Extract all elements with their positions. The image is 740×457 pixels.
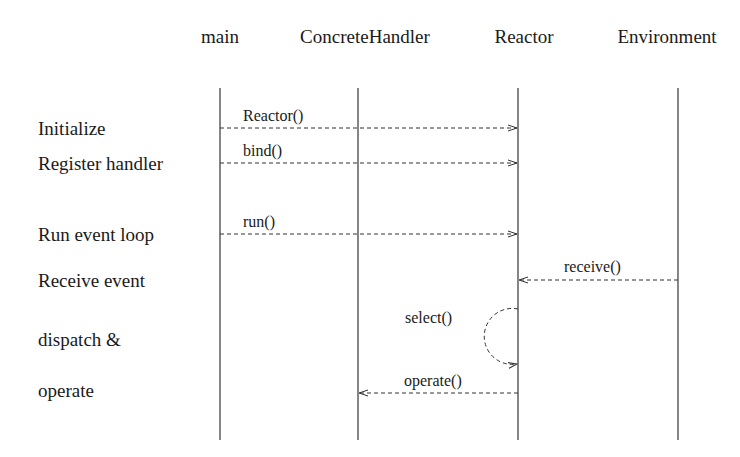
msg-reactor-ctor: Reactor() <box>243 107 303 125</box>
arrow-select-loop <box>484 308 518 364</box>
msg-operate: operate() <box>404 372 462 390</box>
msg-receive: receive() <box>564 258 621 276</box>
sequence-graphics <box>0 0 740 457</box>
msg-select: select() <box>405 309 452 327</box>
msg-bind: bind() <box>243 142 282 160</box>
msg-run: run() <box>243 213 275 231</box>
